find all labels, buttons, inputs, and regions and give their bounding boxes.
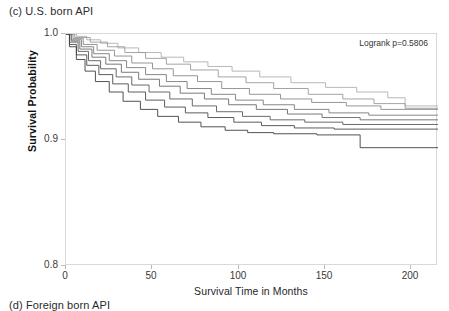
x-axis-label: Survival Time in Months xyxy=(65,285,437,297)
next-panel-title: (d) Foreign born API xyxy=(9,299,110,311)
xtick-label-0: 0 xyxy=(45,270,85,281)
ytick-mark-1 xyxy=(61,33,65,34)
xtick-mark-150 xyxy=(324,265,325,269)
plot-area: Logrank p=0.5806 xyxy=(65,33,437,265)
logrank-annotation: Logrank p=0.5806 xyxy=(359,38,428,48)
ytick-label-0.8: 0.8 xyxy=(18,259,58,270)
ytick-label-1: 1.0 xyxy=(18,27,58,38)
y-axis-label: Survival Probability xyxy=(26,21,38,181)
xtick-mark-0 xyxy=(65,265,66,269)
xtick-label-200: 200 xyxy=(390,270,430,281)
ytick-label-0.9: 0.9 xyxy=(18,133,58,144)
ytick-mark-0.9 xyxy=(61,139,65,140)
xtick-mark-50 xyxy=(151,265,152,269)
xtick-label-50: 50 xyxy=(131,270,171,281)
survival-curve xyxy=(66,34,438,148)
page-title: (c) U.S. born API xyxy=(9,5,93,17)
xtick-label-100: 100 xyxy=(218,270,258,281)
xtick-mark-200 xyxy=(410,265,411,269)
survival-curves xyxy=(66,34,438,266)
xtick-label-150: 150 xyxy=(304,270,344,281)
xtick-mark-100 xyxy=(238,265,239,269)
